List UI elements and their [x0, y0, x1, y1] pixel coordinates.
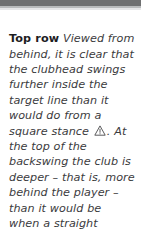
- warning-triangle-icon: [94, 125, 106, 136]
- page-root: Top row Viewed from behind, it is clear …: [0, 0, 141, 250]
- caption-lead-label: Top row: [9, 32, 59, 45]
- caption-paragraph: Top row Viewed from behind, it is clear …: [9, 31, 135, 231]
- page-top-rule-shade-light: [0, 8, 141, 10]
- caption-text-after-icon: . At the top of the backswing the club i…: [9, 125, 135, 230]
- caption-text-before-icon: Viewed from behind, it is clear that the…: [9, 32, 134, 137]
